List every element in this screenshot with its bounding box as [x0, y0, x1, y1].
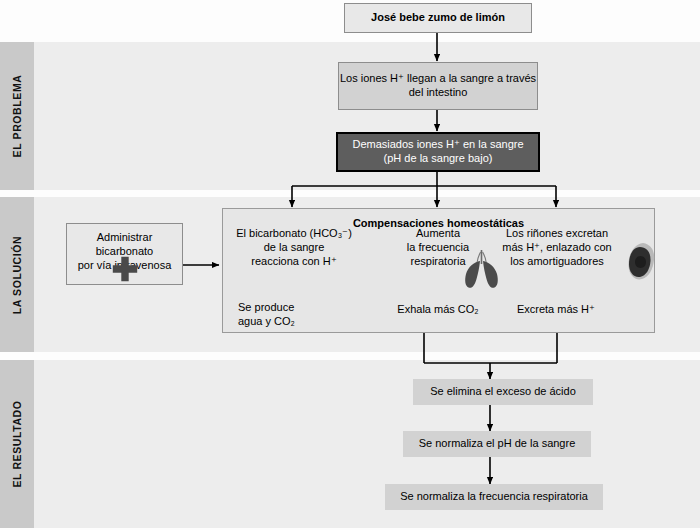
panel-col1-bottom-line1: Se produce: [238, 300, 338, 314]
band-label-solucion: LA SOLUCIÓN: [11, 235, 23, 314]
panel-col3-top-line3: los amortiguadores: [489, 254, 625, 268]
band-label-problema: EL PROBLEMA: [11, 75, 23, 158]
node-trigger: José bebe zumo de limón: [344, 3, 532, 33]
node-treatment: Administrar bicarbonato por vía intraven…: [66, 223, 183, 285]
node-trigger-label: José bebe zumo de limón: [371, 11, 505, 25]
result-label-2: Se normaliza el pH de la sangre: [419, 437, 576, 451]
diagram-canvas: EL PROBLEMA LA SOLUCIÓN EL RESULTADO: [0, 0, 700, 530]
kidney-icon: [625, 240, 659, 285]
panel-col1-top-line2: de la sangre: [226, 240, 362, 254]
band-tab-problema: EL PROBLEMA: [0, 42, 34, 190]
band-label-resultado: EL RESULTADO: [11, 400, 23, 487]
result-box-3: Se normaliza la frecuencia respiratoria: [385, 484, 603, 510]
node-absorption-label: Los iones H⁺ llegan a la sangre a través…: [339, 72, 537, 100]
node-acidosis: Demasiados iones H⁺ en la sangre (pH de …: [336, 132, 540, 172]
panel-col2-top-line1: Aumenta: [390, 226, 486, 240]
panel-col3-top: Los riñones excretan más H⁺, enlazado co…: [489, 226, 625, 268]
node-absorption: Los iones H⁺ llegan a la sangre a través…: [338, 62, 538, 110]
panel-col2-bottom: Exhala más CO₂: [388, 302, 488, 316]
result-box-2: Se normaliza el pH de la sangre: [403, 431, 591, 457]
node-treatment-line1: Administrar bicarbonato: [67, 231, 182, 259]
node-acidosis-line2: (pH de la sangre bajo): [384, 152, 493, 166]
result-label-1: Se elimina el exceso de ácido: [430, 385, 576, 399]
panel-col3-top-line2: más H⁺, enlazado con: [489, 240, 625, 254]
panel-col2-bottom-line1: Exhala más CO₂: [388, 302, 488, 316]
panel-col3-bottom: Excreta más H⁺: [506, 302, 606, 316]
panel-col3-bottom-line1: Excreta más H⁺: [506, 302, 606, 316]
node-acidosis-line1: Demasiados iones H⁺ en la sangre: [352, 138, 523, 152]
band-tab-resultado: EL RESULTADO: [0, 360, 34, 528]
panel-col1-bottom: Se produce agua y CO₂: [238, 300, 338, 328]
panel-col1-top-line1: El bicarbonato (HCO₃⁻): [226, 226, 362, 240]
band-tab-solucion: LA SOLUCIÓN: [0, 197, 34, 352]
panel-col1-top: El bicarbonato (HCO₃⁻) de la sangre reac…: [226, 226, 362, 268]
result-box-1: Se elimina el exceso de ácido: [413, 379, 593, 405]
result-label-3: Se normaliza la frecuencia respiratoria: [400, 490, 588, 504]
panel-col1-bottom-line2: agua y CO₂: [238, 314, 338, 328]
panel-col1-top-line3: reacciona con H⁺: [226, 254, 362, 268]
medical-cross-icon: [112, 256, 138, 282]
panel-col3-top-line1: Los riñones excretan: [489, 226, 625, 240]
